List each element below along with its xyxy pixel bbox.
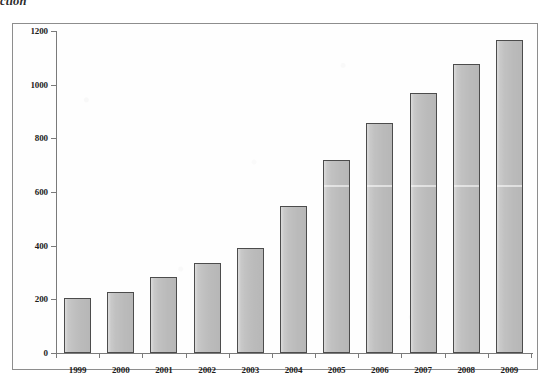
- scan-band: [497, 185, 522, 187]
- x-axis-tick: [142, 354, 143, 358]
- scan-band: [324, 185, 349, 187]
- bar-2005: [323, 160, 350, 353]
- x-axis-label-2006: 2006: [371, 365, 389, 375]
- bar-2006: [366, 123, 393, 353]
- bar-2004: [280, 206, 307, 353]
- x-axis-label-2009: 2009: [501, 365, 519, 375]
- bar-1999: [64, 298, 91, 353]
- x-axis-tick: [358, 354, 359, 358]
- y-axis-tick-label: 0: [44, 348, 48, 358]
- scan-band: [454, 185, 479, 187]
- x-axis-label-2008: 2008: [457, 365, 475, 375]
- scan-band: [411, 185, 436, 187]
- bar-2000: [107, 292, 134, 353]
- bar-2007: [410, 93, 437, 353]
- scan-band: [367, 185, 392, 187]
- x-axis-label-2002: 2002: [198, 365, 216, 375]
- x-axis-tick: [272, 354, 273, 358]
- x-axis-label-2004: 2004: [285, 365, 303, 375]
- bar-2008: [453, 64, 480, 353]
- y-axis-tick-label: 1200: [30, 26, 48, 36]
- x-axis-label-2003: 2003: [242, 365, 260, 375]
- x-axis-tick: [401, 354, 402, 358]
- x-axis-label-2007: 2007: [414, 365, 432, 375]
- y-axis-tick-label: 600: [35, 187, 48, 197]
- x-axis-tick: [186, 354, 187, 358]
- x-axis-tick: [445, 354, 446, 358]
- x-axis-tick: [229, 354, 230, 358]
- caption-fragment: ction: [0, 0, 27, 8]
- y-axis-tick-label: 400: [35, 241, 48, 251]
- bar-2009: [496, 40, 523, 353]
- x-axis-label-2000: 2000: [112, 365, 130, 375]
- x-axis-tick: [315, 354, 316, 358]
- x-axis-tick: [99, 354, 100, 358]
- x-axis-labels: 1999200020012002200320042005200620072008…: [56, 365, 531, 379]
- x-axis-line: [56, 353, 533, 354]
- x-axis-tick: [531, 354, 532, 358]
- x-axis-tick: [488, 354, 489, 358]
- y-axis-tick-label: 200: [35, 294, 48, 304]
- bar-2003: [237, 248, 264, 353]
- x-axis-label-1999: 1999: [69, 365, 87, 375]
- chart-frame: 020040060080010001200 199920002001200220…: [12, 23, 538, 370]
- bar-2001: [150, 277, 177, 353]
- x-axis-label-2001: 2001: [155, 365, 173, 375]
- x-axis-tick: [56, 354, 57, 358]
- y-axis-tick-label: 1000: [30, 80, 48, 90]
- plot-area: [56, 31, 531, 353]
- x-axis-label-2005: 2005: [328, 365, 346, 375]
- bar-2002: [194, 263, 221, 353]
- y-axis-tick-label: 800: [35, 133, 48, 143]
